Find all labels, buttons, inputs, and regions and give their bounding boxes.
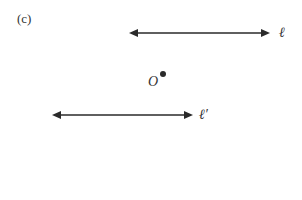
diagram-svg [0, 0, 302, 200]
point-o-label: O [148, 75, 158, 89]
arrowhead-right-icon [184, 111, 193, 119]
diagram-canvas: (c) ℓ ℓ′ O [0, 0, 302, 200]
point-o-dot-icon [160, 71, 166, 77]
line-l [129, 29, 270, 37]
arrowhead-left-icon [52, 111, 61, 119]
line-l-prime [52, 111, 193, 119]
line-l-prime-label: ℓ′ [199, 108, 208, 122]
arrowhead-left-icon [129, 29, 138, 37]
line-l-label: ℓ [279, 26, 285, 40]
arrowhead-right-icon [261, 29, 270, 37]
